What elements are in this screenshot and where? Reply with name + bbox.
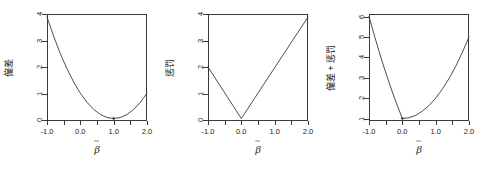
x-tick-label: -1.0 xyxy=(363,128,376,136)
plot-svg-bias-plus-penalty xyxy=(369,14,469,121)
curve-penalty xyxy=(208,17,308,119)
x-tick-mark xyxy=(308,121,309,125)
curve-bias xyxy=(47,17,147,119)
y-tick-label: 4 xyxy=(197,14,205,18)
x-tick-label: 1.0 xyxy=(269,128,279,136)
minimum-point-marker-bias xyxy=(112,117,115,120)
x-tick-mark xyxy=(275,121,276,125)
y-tick-label: 6 xyxy=(358,17,366,21)
x-tick-mark xyxy=(386,121,387,125)
x-axis-title-bias-plus-penalty: β xyxy=(369,143,469,155)
x-tick-label: -1.0 xyxy=(202,128,215,136)
x-tick-mark xyxy=(130,121,131,125)
x-tick-label: 2.0 xyxy=(303,128,313,136)
x-tick-label: 0.0 xyxy=(75,128,85,136)
panel-bias-plus-penalty: 偏差 + 惩罚 1 2 3 4 5 6 xyxy=(322,0,483,170)
x-tick-label: 1.0 xyxy=(430,128,440,136)
plot-svg-penalty xyxy=(208,14,308,121)
y-tick-label: 1 xyxy=(358,119,366,123)
x-tick-mark xyxy=(47,121,48,125)
plot-area-penalty xyxy=(208,14,308,121)
y-tick-label: 3 xyxy=(36,41,44,45)
x-tick-mark xyxy=(469,121,470,125)
x-tick-mark xyxy=(114,121,115,125)
x-axis-title-bias-text: β xyxy=(94,143,99,155)
x-axis-title-penalty-text: β xyxy=(255,143,260,155)
x-axis-title-bias-plus-penalty-text: β xyxy=(416,143,421,155)
x-tick-label: 2.0 xyxy=(142,128,152,136)
x-tick-mark xyxy=(291,121,292,125)
y-tick-label: 3 xyxy=(197,41,205,45)
x-tick-label: 2.0 xyxy=(464,128,474,136)
x-tick-mark xyxy=(402,121,403,125)
multi-panel-figure: 偏差 0 1 2 3 4 xyxy=(0,0,483,170)
y-axis-bias-plus-penalty: 1 2 3 4 5 6 xyxy=(322,14,369,121)
y-tick-label: 2 xyxy=(358,98,366,102)
x-tick-label: 0.0 xyxy=(397,128,407,136)
panel-bias: 偏差 0 1 2 3 4 xyxy=(0,0,161,170)
x-tick-mark xyxy=(436,121,437,125)
y-tick-label: 0 xyxy=(36,120,44,124)
x-tick-mark xyxy=(369,121,370,125)
x-tick-label: 0.0 xyxy=(236,128,246,136)
y-tick-label: 4 xyxy=(358,57,366,61)
y-tick-label: 4 xyxy=(36,14,44,18)
x-tick-mark xyxy=(452,121,453,125)
panel-penalty: 惩罚 0 1 2 3 4 -1. xyxy=(161,0,322,170)
y-tick-label: 2 xyxy=(36,67,44,71)
x-tick-mark xyxy=(64,121,65,125)
x-axis-title-penalty: β xyxy=(208,143,308,155)
minimum-point-marker-bias-plus-penalty xyxy=(401,117,404,120)
x-tick-mark xyxy=(419,121,420,125)
y-tick-label: 0 xyxy=(197,120,205,124)
y-axis-bias: 0 1 2 3 4 xyxy=(0,14,47,121)
plot-area-bias xyxy=(47,14,147,121)
x-tick-mark xyxy=(97,121,98,125)
y-tick-label: 2 xyxy=(197,67,205,71)
y-tick-label: 3 xyxy=(358,78,366,82)
plot-area-bias-plus-penalty xyxy=(369,14,469,121)
x-tick-mark xyxy=(147,121,148,125)
y-tick-label: 1 xyxy=(36,94,44,98)
x-tick-label: -1.0 xyxy=(41,128,54,136)
plot-svg-bias xyxy=(47,14,147,121)
x-tick-mark xyxy=(225,121,226,125)
curve-bias-plus-penalty xyxy=(369,17,469,119)
y-axis-penalty: 0 1 2 3 4 xyxy=(161,14,208,121)
x-tick-mark xyxy=(80,121,81,125)
x-axis-title-bias: β xyxy=(47,143,147,155)
x-tick-mark xyxy=(208,121,209,125)
x-tick-mark xyxy=(258,121,259,125)
x-tick-mark xyxy=(241,121,242,125)
x-tick-label: 1.0 xyxy=(108,128,118,136)
y-tick-label: 1 xyxy=(197,94,205,98)
y-tick-label: 5 xyxy=(358,37,366,41)
